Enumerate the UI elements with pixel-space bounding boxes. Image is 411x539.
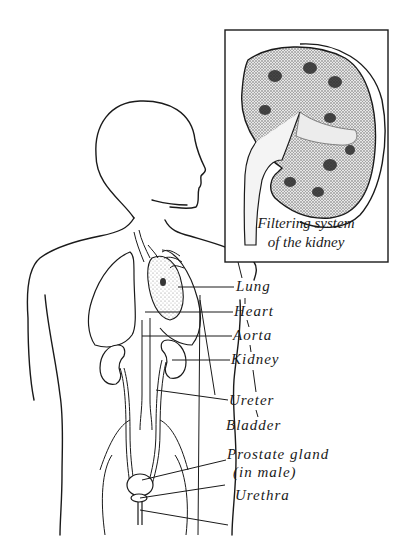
ureters: [120, 360, 166, 485]
label-prostate: Prostate gland: [227, 447, 329, 462]
label-bladder: Bladder: [226, 418, 281, 433]
label-aorta: Aorta: [233, 328, 272, 343]
label-heart: Heart: [234, 304, 274, 319]
anatomy-illustration: [0, 0, 411, 539]
label-prostate-note: (in male): [233, 465, 297, 480]
inset-caption-line-1: Filtering system: [226, 214, 386, 233]
label-kidney: Kidney: [231, 352, 280, 367]
kidneys: [100, 340, 186, 384]
label-urethra: Urethra: [235, 488, 290, 503]
inset-caption-line-2: of the kidney: [226, 233, 386, 252]
heart-detail: [160, 278, 166, 286]
label-ureter: Ureter: [229, 393, 274, 408]
urinary-system-diagram: Filtering system of the kidney Lung Hear…: [0, 0, 411, 539]
body-outline: [27, 101, 256, 535]
bladder: [127, 474, 153, 525]
label-lung: Lung: [236, 279, 271, 294]
